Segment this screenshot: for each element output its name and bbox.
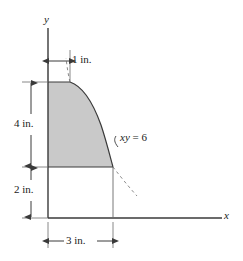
- dimension-label-4in: 4 in.: [14, 118, 34, 129]
- dimension-label-3in: 3 in.: [66, 235, 86, 246]
- curve-equation-value: = 6: [130, 131, 147, 143]
- curve-dashed-lower: [113, 167, 137, 196]
- shaded-region: [48, 82, 113, 167]
- curve-equation-variable: xy: [120, 131, 130, 143]
- y-axis-label: y: [44, 14, 49, 25]
- x-axis-label: x: [224, 210, 229, 221]
- dimension-label-1in: 1 in.: [72, 54, 92, 65]
- dimension-label-2in: 2 in.: [14, 184, 34, 195]
- curve-label-leader: [115, 136, 118, 147]
- curve-dashed-upper: [66, 58, 70, 82]
- curve-equation-label: xy = 6: [120, 132, 147, 143]
- figure-container: y x 1 in. 4 in. 2 in. 3 in. xy = 6: [0, 0, 243, 261]
